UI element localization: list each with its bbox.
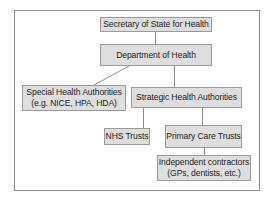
- node-label: Independent contractors: [159, 157, 249, 168]
- node-nhs-trusts: NHS Trusts: [104, 128, 150, 145]
- edge-doh-sha: [94, 66, 129, 85]
- node-primary-care-trusts: Primary Care Trusts: [165, 125, 242, 148]
- node-label: Department of Health: [116, 50, 196, 61]
- node-label: Strategic Health Authorities: [136, 92, 237, 103]
- node-special-health-authorities: Special Health Authorities (e.g. NICE, H…: [22, 85, 126, 111]
- node-sublabel: (GPs, dentists, etc.): [167, 168, 240, 179]
- node-label: Secretary of State for Health: [103, 19, 209, 30]
- node-label: NHS Trusts: [106, 131, 149, 142]
- node-label: Special Health Authorities: [26, 87, 121, 98]
- node-department-of-health: Department of Health: [100, 44, 212, 66]
- node-strategic-health-authorities: Strategic Health Authorities: [131, 87, 242, 108]
- node-label: Primary Care Trusts: [166, 131, 241, 142]
- node-secretary-of-state: Secretary of State for Health: [100, 17, 212, 32]
- node-sublabel: (e.g. NICE, HPA, HDA): [31, 98, 117, 109]
- node-independent-contractors: Independent contractors (GPs, dentists, …: [157, 155, 251, 181]
